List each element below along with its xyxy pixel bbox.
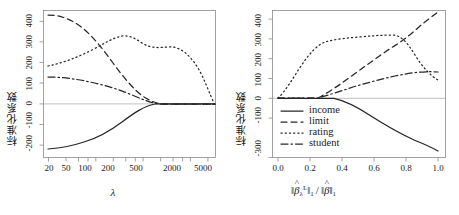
figure-root: 标准化系数 400 300 200 100 0 -100 -200 <box>0 0 459 215</box>
right-x-axis-label: ‖^βλL‖1/‖^β‖1 <box>291 184 336 198</box>
right-panel: 标准化系数 400 300 200 100 0 -100 -300 <box>229 0 459 215</box>
left-curve-limit <box>48 15 215 104</box>
left-xtick-label-500: 500 <box>123 163 149 173</box>
legend-label-limit: limit <box>309 115 329 126</box>
right-xtick-label-10: 1.0 <box>427 163 449 173</box>
left-plot-svg <box>0 0 230 215</box>
hat-accent-2: ^ <box>325 179 329 188</box>
slash-symbol: / <box>314 184 321 196</box>
left-curve-rating <box>48 36 214 103</box>
legend-label-income: income <box>309 104 340 115</box>
right-xtick-label-04: 0.4 <box>331 163 353 173</box>
legend-label-rating: rating <box>309 126 334 137</box>
left-curve-income <box>48 104 215 149</box>
one-subscript-2: 1 <box>333 190 337 198</box>
left-xtick-label-5000: 5000 <box>188 163 218 173</box>
right-legend-lines <box>229 0 459 215</box>
left-panel: 标准化系数 400 300 200 100 0 -100 -200 <box>0 0 230 215</box>
left-y-ticks <box>40 21 44 145</box>
left-xtick-label-2000: 2000 <box>157 163 187 173</box>
beta-hat-ols: ^β <box>324 184 329 196</box>
hat-accent-1: ^ <box>295 179 299 188</box>
left-x-ticks <box>49 158 208 162</box>
left-x-axis-label: λ <box>98 186 128 198</box>
legend-label-student: student <box>309 137 339 148</box>
right-xtick-label-06: 0.6 <box>363 163 385 173</box>
right-xtick-label-00: 0.0 <box>267 163 289 173</box>
beta-hat-lasso: ^β <box>294 184 299 196</box>
left-xtick-label-200: 200 <box>95 163 121 173</box>
left-curve-student <box>48 77 215 104</box>
right-xtick-label-08: 0.8 <box>395 163 417 173</box>
right-xtick-label-02: 0.2 <box>299 163 321 173</box>
